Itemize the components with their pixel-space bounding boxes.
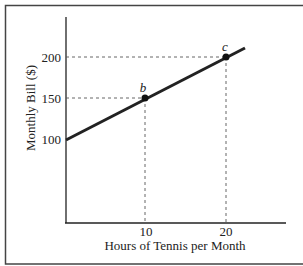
bill-line	[66, 48, 245, 140]
chart: b c 200 150 100 10 20 Hours of Tennis pe…	[0, 0, 303, 266]
point-b-label: b	[140, 80, 147, 95]
y-tick-200: 200	[42, 50, 62, 65]
point-b	[142, 95, 149, 102]
point-c-label: c	[222, 39, 228, 54]
y-axis-label: Monthly Bill ($)	[23, 65, 38, 151]
point-c	[223, 54, 230, 61]
y-tick-100: 100	[42, 132, 62, 147]
x-axis-label: Hours of Tennis per Month	[104, 238, 246, 253]
x-tick-20: 20	[220, 224, 233, 239]
x-tick-10: 10	[140, 224, 153, 239]
y-tick-150: 150	[42, 91, 62, 106]
